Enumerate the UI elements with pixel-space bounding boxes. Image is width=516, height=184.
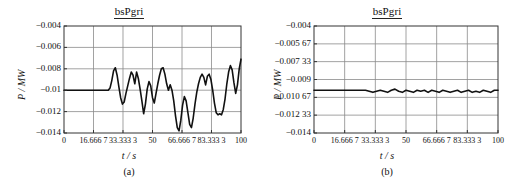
y-tick-label: −0.009 [286,74,311,84]
x-tick-label: 100 [476,136,516,145]
x-axis-label-a: t / s [0,150,258,161]
chart-panel-a: bsPgri P / MW t / s (a) −0.004−0.006−0.0… [0,0,258,184]
y-tick-label: −0.004 [286,20,311,30]
y-tick-label: −0.010 67 [274,91,311,101]
figure-container: bsPgri P / MW t / s (a) −0.004−0.006−0.0… [0,0,516,184]
y-tick-label: −0.008 [36,63,61,73]
y-tick-label: −0.004 [36,20,61,30]
y-tick-label: −0.012 [36,106,61,116]
y-tick-label: −0.012 33 [274,109,311,119]
y-tick-label: −0.005 67 [274,38,311,48]
panel-caption-b: (b) [258,166,516,177]
x-tick-label: 100 [219,136,263,145]
y-tick-label: −0.006 [36,41,61,51]
chart-panel-b: bsPgri P / MW t / s (b) −0.004−0.005 67−… [258,0,516,184]
y-tick-label: −0.007 33 [274,56,311,66]
x-axis-label-b: t / s [258,150,516,161]
panel-caption-a: (a) [0,166,258,177]
y-tick-label: −0.01 [40,84,61,94]
